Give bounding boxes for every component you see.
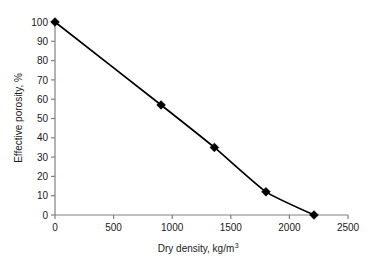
x-axis-tick-label: 1500 [220,222,243,233]
y-axis-tick-label: 30 [37,152,49,163]
x-axis-tick-label: 0 [52,222,58,233]
x-axis-title-superscript: 3 [235,242,239,249]
y-axis-tick-label: 100 [31,17,48,28]
y-axis-tick-label: 40 [37,132,49,143]
effective-porosity-vs-dry-density-chart: 0102030405060708090100 05001000150020002… [0,0,382,264]
x-axis-tick-label: 500 [105,222,122,233]
y-axis-tick-label: 0 [42,210,48,221]
x-axis-tick-label: 2000 [278,222,301,233]
y-axis-title: Effective porosity, % [13,73,24,163]
x-axis-title: Dry density, kg/m 3 [158,242,239,254]
y-axis-tick-label: 60 [37,94,49,105]
y-axis-tick-label: 50 [37,113,49,124]
y-axis-tick-label: 80 [37,55,49,66]
y-axis-title-text: Effective porosity, % [13,73,24,163]
y-axis-tick-label: 70 [37,75,49,86]
y-axis-tick-label: 10 [37,190,49,201]
x-axis-title-text: Dry density, kg/m [158,243,235,254]
y-axis-tick-label: 90 [37,36,49,47]
x-axis-tick-label: 2500 [337,222,360,233]
y-axis-tick-label: 20 [37,171,49,182]
x-axis-tick-label: 1000 [161,222,184,233]
chart-container: 0102030405060708090100 05001000150020002… [0,0,382,264]
